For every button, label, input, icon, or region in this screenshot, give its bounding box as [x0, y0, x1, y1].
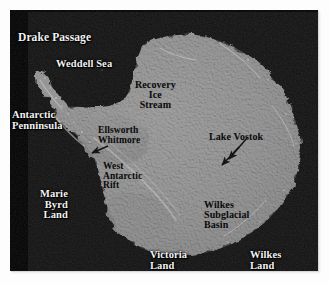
antarctica-relief-map: Drake PassageWeddell SeaAntarcticPennins… — [10, 10, 318, 271]
map-figure: Drake PassageWeddell SeaAntarcticPennins… — [0, 0, 329, 283]
continent-graphic — [10, 10, 318, 271]
image-plate: Drake PassageWeddell SeaAntarcticPennins… — [10, 10, 318, 271]
